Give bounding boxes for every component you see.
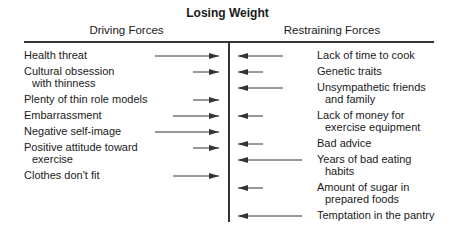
arrow-left-icon [238,85,283,91]
arrow-right-icon [193,69,219,75]
arrow-right-icon [193,97,219,103]
arrow-left-icon [238,185,263,191]
arrow-left-icon [238,141,263,147]
arrow-right-icon [193,145,219,151]
arrow-left-icon [238,213,302,219]
arrow-left-icon [238,113,263,119]
arrow-right-icon [173,173,219,179]
force-arrows [0,0,455,234]
arrow-left-icon [238,157,302,163]
arrow-left-icon [238,69,263,75]
arrow-right-icon [155,129,219,135]
arrow-left-icon [238,53,283,59]
arrow-right-icon [155,53,219,59]
arrow-right-icon [173,113,219,119]
